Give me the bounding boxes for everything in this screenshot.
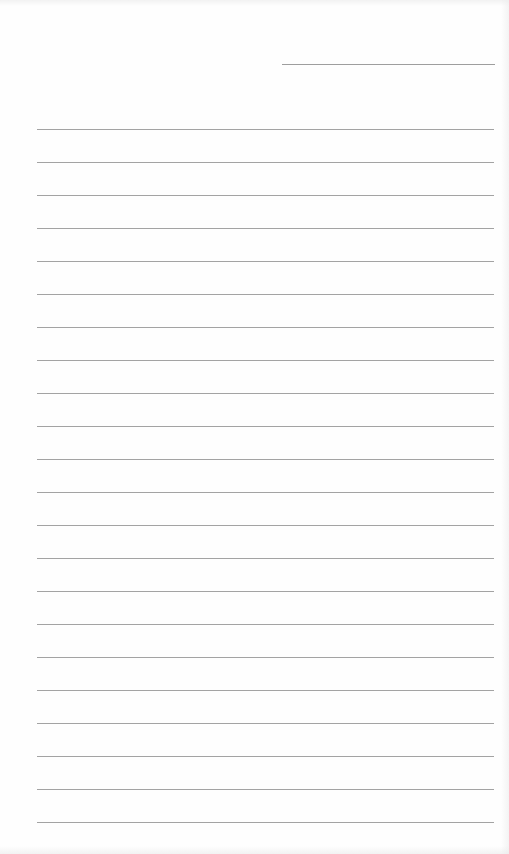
scan-bleed-top	[0, 0, 509, 6]
ruled-line	[37, 195, 494, 196]
ruled-line	[37, 228, 494, 229]
ruled-line	[37, 129, 494, 130]
ruled-line	[37, 327, 494, 328]
ruled-line	[37, 756, 494, 757]
lined-paper-page	[0, 0, 509, 854]
ruled-line	[37, 822, 494, 823]
ruled-line	[37, 525, 494, 526]
scan-edge-shade	[501, 0, 509, 854]
ruled-line	[37, 723, 494, 724]
ruled-line	[37, 789, 494, 790]
ruled-line	[37, 294, 494, 295]
ruled-line	[37, 162, 494, 163]
scan-bleed-bottom	[0, 846, 509, 854]
ruled-line	[37, 426, 494, 427]
ruled-line	[37, 591, 494, 592]
header-line	[282, 64, 495, 65]
ruled-line	[37, 624, 494, 625]
ruled-line	[37, 690, 494, 691]
ruled-line	[37, 459, 494, 460]
ruled-line	[37, 492, 494, 493]
ruled-line	[37, 261, 494, 262]
ruled-line	[37, 393, 494, 394]
ruled-line	[37, 657, 494, 658]
ruled-line	[37, 558, 494, 559]
ruled-line	[37, 360, 494, 361]
